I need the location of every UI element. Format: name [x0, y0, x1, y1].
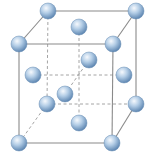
fcc-unit-cell-diagram — [0, 0, 158, 160]
atom-corner-back-bottom-right — [128, 96, 144, 112]
cube-edge-line — [112, 44, 113, 143]
atom-corner-front-top-left — [11, 36, 27, 52]
atom-face-bottom-center — [71, 115, 87, 131]
atom-corner-back-top-left — [40, 3, 56, 19]
atom-corner-back-bottom-left — [39, 96, 55, 112]
atoms — [11, 3, 144, 151]
atom-face-front-center — [57, 86, 73, 102]
atom-corner-back-top-right — [128, 3, 144, 19]
hidden-edge-line — [47, 11, 48, 104]
atom-face-right-center — [116, 67, 132, 83]
atom-face-top-center — [71, 19, 87, 35]
atom-face-left-center — [25, 67, 41, 83]
atom-corner-front-bottom-right — [104, 135, 120, 151]
atom-corner-front-top-right — [105, 36, 121, 52]
atom-corner-front-bottom-left — [11, 135, 27, 151]
atom-face-back-center — [81, 52, 97, 68]
